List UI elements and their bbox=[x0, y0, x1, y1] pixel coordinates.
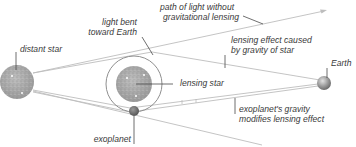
label-lensing-effect-line1: lensing effect caused bbox=[231, 35, 312, 45]
label-lensing-star: lensing star bbox=[180, 78, 224, 88]
leader-light-bent bbox=[142, 37, 153, 55]
label-exoplanet-gravity-line1: exoplanet's gravity bbox=[239, 104, 324, 114]
label-path-without-lensing: path of light without gravitational lens… bbox=[160, 2, 239, 22]
label-path-line1: path of light without bbox=[160, 2, 239, 12]
label-light-bent: light bent toward Earth bbox=[86, 17, 137, 37]
lower-diverging-path bbox=[33, 91, 262, 145]
label-lensing-effect: lensing effect caused by gravity of star bbox=[231, 35, 312, 55]
upper-bent-path bbox=[33, 52, 320, 80]
label-exoplanet-gravity: exoplanet's gravity modifies lensing eff… bbox=[239, 104, 324, 124]
label-light-bent-line2: toward Earth bbox=[86, 27, 137, 37]
label-exoplanet-gravity-line2: modifies lensing effect bbox=[239, 114, 324, 124]
diagram-graphics bbox=[0, 0, 356, 147]
label-exoplanet: exoplanet bbox=[80, 134, 131, 144]
label-distant-star: distant star bbox=[20, 44, 62, 54]
label-path-line2: gravitational lensing bbox=[160, 12, 239, 22]
label-lensing-effect-line2: by gravity of star bbox=[231, 45, 312, 55]
microlensing-diagram: distant star light bent toward Earth pat… bbox=[0, 0, 356, 147]
leader-path-without bbox=[243, 16, 263, 24]
label-earth: Earth bbox=[331, 58, 352, 68]
exoplanet bbox=[129, 106, 139, 116]
label-light-bent-line1: light bent bbox=[86, 17, 137, 27]
earth bbox=[317, 76, 331, 90]
